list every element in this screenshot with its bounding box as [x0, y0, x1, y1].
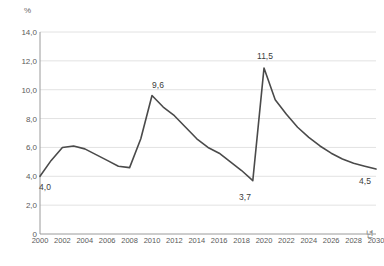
x-axis-tick-label: 2002 [54, 236, 71, 245]
y-axis-tick-label: 12,0 [5, 56, 37, 65]
x-axis-tick-labels: 2000200220042006200820102012201420162018… [0, 236, 384, 252]
y-axis-tick-labels: 02,04,06,08,010,012,014,0 [0, 0, 37, 266]
x-axis-tick-label: 2026 [323, 236, 340, 245]
gridlines [40, 32, 376, 234]
y-axis-tick-label: 8,0 [5, 114, 37, 123]
y-axis-tick-label: 6,0 [5, 143, 37, 152]
data-point-label: 9,6 [152, 80, 164, 90]
data-point-label: 4,5 [359, 176, 371, 186]
x-axis-tick-label: 2018 [233, 236, 250, 245]
x-axis-tick-label: 2000 [32, 236, 49, 245]
x-axis-tick-label: 2004 [76, 236, 93, 245]
x-axis-tick-label: 2006 [99, 236, 116, 245]
x-axis-tick-label: 2024 [300, 236, 317, 245]
x-axis-tick-label: 2022 [278, 236, 295, 245]
x-axis-tick-label: 2016 [211, 236, 228, 245]
data-point-label: 3,7 [239, 192, 251, 202]
line-chart: % 년 02,04,06,08,010,012,014,0 2000200220… [0, 0, 384, 266]
x-axis-tick-label: 2008 [121, 236, 138, 245]
y-axis-tick-label: 14,0 [5, 28, 37, 37]
data-point-label: 4,0 [39, 182, 51, 192]
x-axis-tick-label: 2030 [368, 236, 384, 245]
plot-area [0, 0, 384, 266]
y-axis-tick-label: 10,0 [5, 85, 37, 94]
data-series-line [40, 68, 376, 181]
y-axis-tick-label: 2,0 [5, 201, 37, 210]
x-axis-tick-label: 2012 [166, 236, 183, 245]
x-axis-tick-label: 2010 [144, 236, 161, 245]
data-point-label: 11,5 [257, 51, 273, 61]
y-axis-tick-label: 4,0 [5, 172, 37, 181]
x-axis-tick-label: 2020 [256, 236, 273, 245]
x-axis-tick-label: 2028 [345, 236, 362, 245]
x-axis-tick-label: 2014 [188, 236, 205, 245]
